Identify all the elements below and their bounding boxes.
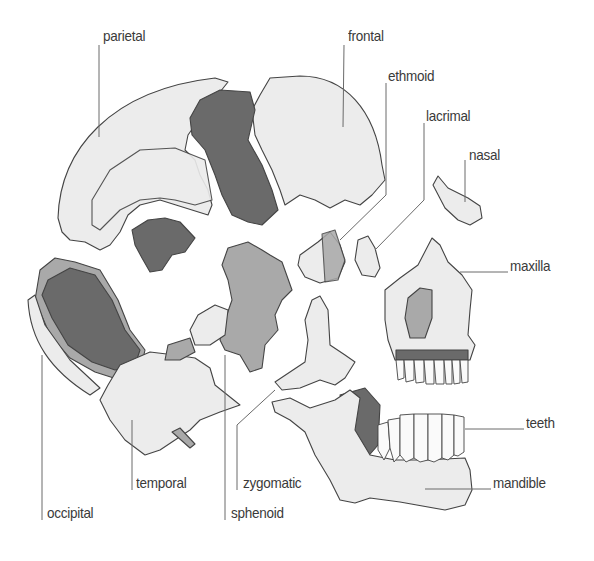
temporal-bone	[100, 352, 240, 455]
upper-teeth	[396, 360, 468, 384]
label-frontal: frontal	[348, 28, 384, 43]
label-ethmoid: ethmoid	[388, 68, 434, 83]
leader-lacrimal	[375, 123, 424, 250]
label-occipital: occipital	[47, 505, 93, 520]
parietal-lower-fragment	[132, 218, 195, 272]
label-zygomatic: zygomatic	[243, 475, 301, 490]
ethmoid-bone	[298, 230, 345, 283]
label-teeth: teeth	[526, 415, 555, 430]
maxilla-bone	[385, 238, 475, 360]
label-temporal: temporal	[136, 475, 186, 490]
skull-diagram: parietal frontal ethmoid lacrimal nasal …	[0, 0, 594, 561]
lacrimal-bone	[355, 236, 380, 277]
label-nasal: nasal	[469, 147, 500, 162]
label-mandible: mandible	[493, 475, 546, 490]
zygomatic-bone	[275, 296, 355, 390]
lower-teeth	[378, 414, 464, 462]
label-maxilla: maxilla	[510, 258, 550, 273]
nasal-bone	[433, 176, 482, 225]
sphenoid-bone	[165, 242, 292, 372]
frontal-bone	[252, 76, 385, 208]
label-sphenoid: sphenoid	[231, 505, 284, 520]
label-lacrimal: lacrimal	[426, 108, 470, 123]
label-parietal: parietal	[103, 28, 145, 43]
